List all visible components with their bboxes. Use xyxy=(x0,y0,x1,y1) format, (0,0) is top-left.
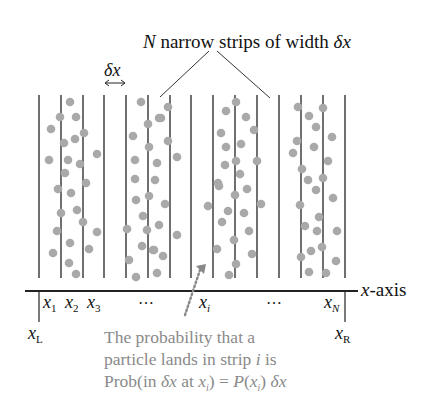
particle-dot xyxy=(49,249,58,258)
title-pointer-left xyxy=(160,51,209,97)
caption-text: ) xyxy=(260,371,270,391)
tick-ellipsis-1: … xyxy=(138,290,154,308)
particle-dot xyxy=(217,129,226,138)
caption-text: Prob(in xyxy=(104,371,161,391)
tick-var: x xyxy=(87,292,95,312)
particle-dot xyxy=(312,186,321,195)
particle-dot xyxy=(79,218,88,227)
particle-dot xyxy=(153,159,162,168)
particle-dot xyxy=(85,245,94,254)
particle-dot xyxy=(231,191,240,200)
particle-dot xyxy=(305,112,314,121)
caption-text: particle lands in strip xyxy=(104,349,256,369)
particle-dot xyxy=(243,185,252,194)
particle-dot xyxy=(67,189,76,198)
particle-dot xyxy=(161,200,170,209)
particle-dot xyxy=(164,103,173,112)
particle-dot xyxy=(72,270,81,279)
particle-dot xyxy=(222,143,231,152)
caption-line-2: particle lands in strip i is xyxy=(104,348,286,370)
x-axis-label: x-axis xyxy=(361,279,406,301)
title-n: N xyxy=(143,31,156,52)
particle-dot xyxy=(145,143,154,152)
caption-delta: δ xyxy=(271,371,279,391)
tick-sub: i xyxy=(207,302,210,314)
particle-dot xyxy=(93,150,102,159)
particle-dot xyxy=(215,182,224,191)
particle-dot xyxy=(221,161,230,170)
tick-sub: 1 xyxy=(51,302,57,314)
particle-dot xyxy=(53,227,62,236)
particle-dot xyxy=(151,176,160,185)
particle-dot xyxy=(318,243,327,252)
xr-sub: R xyxy=(343,333,350,345)
strips-title-label: N narrow strips of width δx xyxy=(143,31,351,53)
particle-dot xyxy=(71,135,80,144)
particle-dot xyxy=(60,139,69,148)
particle-dot xyxy=(298,165,307,174)
particle-dot xyxy=(64,156,73,165)
particle-dot xyxy=(173,153,182,162)
caption-text: at xyxy=(177,371,198,391)
particle-dot xyxy=(322,269,331,278)
caption-x: x xyxy=(169,371,177,391)
particle-dot xyxy=(222,107,231,116)
delta-x-var: x xyxy=(112,60,120,80)
tick-sub: 2 xyxy=(73,302,79,314)
particle-dot xyxy=(297,253,306,262)
particle-dot xyxy=(73,206,82,215)
particle-dot xyxy=(132,273,141,282)
particle-dot xyxy=(72,113,81,122)
title-pointer-right xyxy=(217,51,270,98)
particle-dot xyxy=(93,228,102,237)
xl-sub: L xyxy=(36,333,43,345)
particle-dot xyxy=(329,194,338,203)
particle-dot xyxy=(47,125,56,134)
particle-dot xyxy=(139,212,148,221)
particle-dot xyxy=(129,132,138,141)
tick-var: x xyxy=(199,292,207,312)
particle-dot xyxy=(310,143,319,152)
ellipsis-text: … xyxy=(266,290,282,307)
particle-dot xyxy=(296,201,305,210)
caption-xi: x xyxy=(250,371,258,391)
particle-dot xyxy=(230,236,239,245)
particle-dot xyxy=(232,260,241,269)
particle-dot xyxy=(304,176,313,185)
particle-dot xyxy=(65,259,74,268)
particle-dot xyxy=(144,120,153,129)
caption-xi: x xyxy=(198,371,206,391)
particle-dot xyxy=(61,169,70,178)
particle-dot xyxy=(232,98,241,107)
strips-diagram: N narrow strips of width δx δx x-axis x1… xyxy=(0,0,441,418)
particle-dot xyxy=(76,160,85,169)
ellipsis-text: … xyxy=(138,290,154,307)
caption-text: is xyxy=(261,349,277,369)
tick-x1: x1 xyxy=(43,292,57,314)
caption-P: P xyxy=(233,371,244,391)
particle-dot xyxy=(125,256,134,265)
particle-dot xyxy=(204,202,213,211)
particle-dot xyxy=(319,104,328,113)
particle-dot xyxy=(57,209,66,218)
tick-xn: xN xyxy=(324,292,339,314)
tick-x2: x2 xyxy=(65,292,79,314)
particle-dot xyxy=(324,157,333,166)
tick-sub: 3 xyxy=(95,302,101,314)
particle-dot xyxy=(301,222,310,231)
tick-sub: N xyxy=(332,302,339,314)
xl-var: x xyxy=(28,323,36,343)
particle-dot xyxy=(80,129,89,138)
particle-dot xyxy=(66,239,75,248)
axis-text: -axis xyxy=(369,279,406,300)
particle-dot xyxy=(159,252,168,261)
xl-label: xL xyxy=(28,323,43,345)
particle-dot xyxy=(45,156,54,165)
particle-dot xyxy=(232,157,241,166)
caption-line-1: The probability that a xyxy=(104,326,286,348)
probability-caption: The probability that a particle lands in… xyxy=(104,326,286,399)
delta-x-label: δx xyxy=(104,60,120,81)
particle-dot xyxy=(143,226,152,235)
particle-dot xyxy=(123,225,132,234)
particle-dot xyxy=(66,98,75,107)
